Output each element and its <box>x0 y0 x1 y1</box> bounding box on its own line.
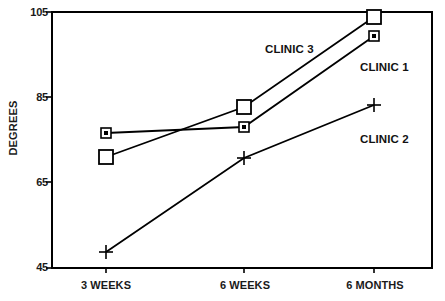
plot-frame <box>52 12 432 268</box>
series-line-clinic-1 <box>101 31 379 138</box>
series-polyline-clinic-3 <box>106 17 374 157</box>
series-polyline-clinic-1 <box>106 36 374 133</box>
series-line-clinic-3 <box>99 10 381 164</box>
plot-area <box>0 0 445 301</box>
axis-frame <box>52 12 432 268</box>
series-markers-clinic-3 <box>99 10 381 164</box>
figure-container: DEGREES 105 85 65 45 3 WEEKS 6 WEEKS 6 M… <box>0 0 445 301</box>
series-markers-clinic-1 <box>101 31 379 138</box>
